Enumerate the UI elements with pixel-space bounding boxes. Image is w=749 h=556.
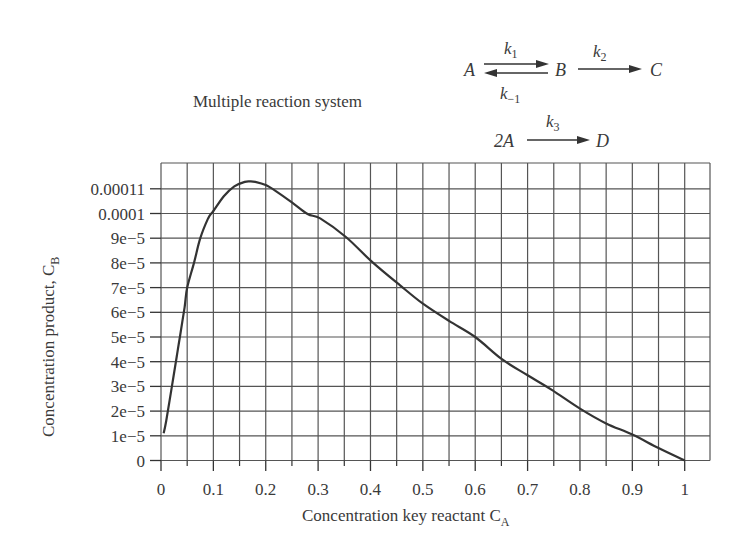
x-tick-label: 0.9 [622,480,643,499]
y-tick-label: 8e−5 [111,254,145,273]
arrow-b-to-c-icon [578,65,642,73]
x-tick-label: 0.4 [360,480,382,499]
x-axis-title: Concentration key reactant CA [302,506,510,529]
rate-constant-k3: k3 [546,112,560,134]
y-tick-label: 4e−5 [111,353,145,372]
species-d: D [595,131,609,151]
x-tick-label: 0 [157,480,166,499]
x-tick-label: 1 [680,480,689,499]
chart-canvas: 01e−52e−53e−54e−55e−56e−57e−58e−59e−50.0… [0,0,749,556]
rate-constant-k-1: k−1 [500,84,520,106]
y-tick-label: 5e−5 [111,328,145,347]
y-tick-label: 2e−5 [111,402,145,421]
y-tick-label: 1e−5 [111,427,145,446]
x-tick-label: 0.7 [517,480,539,499]
y-axis-title: Concentration product, CB [39,257,62,437]
x-tick-label: 0.6 [465,480,486,499]
x-tick-label: 0.8 [569,480,590,499]
y-tick-label: 9e−5 [111,229,145,248]
species-b: B [555,60,566,80]
y-tick-label: 3e−5 [111,377,145,396]
chart: 01e−52e−53e−54e−55e−56e−57e−58e−59e−50.0… [0,0,749,556]
x-tick-label: 0.3 [307,480,328,499]
x-tick-label: 0.2 [255,480,276,499]
forward-arrow-icon [484,60,549,68]
rate-constant-k1: k1 [504,39,518,61]
y-tick-label: 0 [137,452,146,471]
x-tick-label: 0.1 [203,480,224,499]
reverse-arrow-icon [484,69,548,77]
reaction-scheme: A k1 k−1 B k2 C 2A k3 [463,39,663,151]
species-c: C [650,60,663,80]
chart-title: Multiple reaction system [193,92,362,111]
y-tick-label: 0.00011 [90,180,145,199]
species-2a: 2A [494,131,515,151]
x-tick-label: 0.5 [412,480,433,499]
rate-constant-k2: k2 [593,42,607,64]
y-tick-label: 7e−5 [111,279,145,298]
arrow-2a-to-d-icon [527,136,590,144]
y-tick-label: 0.0001 [98,205,145,224]
y-tick-label: 6e−5 [111,303,145,322]
species-a: A [463,60,476,80]
